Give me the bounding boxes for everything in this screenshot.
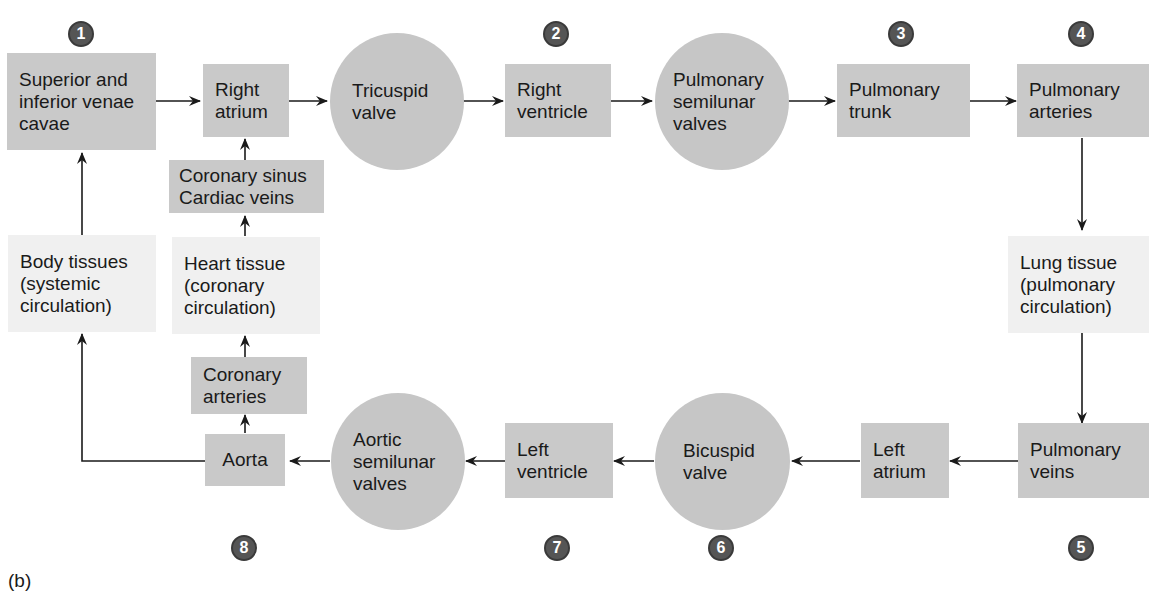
node-label: Pulmonary semilunar valves — [673, 69, 773, 135]
node-bicuspid-valve: Bicuspid valve — [655, 393, 790, 530]
node-label: Right atrium — [215, 79, 277, 123]
node-left-ventricle: Left ventricle — [505, 423, 613, 498]
figure-label: (b) — [8, 570, 31, 592]
node-lung-tissue: Lung tissue (pulmonary circulation) — [1008, 236, 1149, 333]
step-badge-2: 2 — [543, 21, 569, 47]
node-label: Right ventricle — [517, 79, 597, 123]
node-right-atrium: Right atrium — [203, 64, 289, 137]
node-label: Left ventricle — [517, 439, 597, 483]
node-label: Left atrium — [873, 439, 933, 483]
node-body-tissues: Body tissues (systemic circulation) — [8, 235, 156, 332]
node-label: Pulmonary arteries — [1029, 79, 1129, 123]
node-label: Lung tissue (pulmonary circulation) — [1020, 252, 1137, 318]
step-badge-3: 3 — [888, 21, 914, 47]
node-label: Pulmonary trunk — [849, 79, 949, 123]
node-tricuspid-valve: Tricuspid valve — [330, 33, 464, 170]
node-label: Body tissues (systemic circulation) — [20, 251, 140, 317]
node-label: Aorta — [222, 449, 267, 471]
node-label: Coronary sinus Cardiac veins — [179, 165, 314, 209]
step-badge-8: 8 — [231, 535, 257, 561]
node-pulmonary-arteries: Pulmonary arteries — [1017, 64, 1149, 137]
node-coronary-sinus: Coronary sinus Cardiac veins — [169, 160, 324, 213]
node-coronary-arteries: Coronary arteries — [191, 357, 307, 414]
node-label: Pulmonary veins — [1030, 439, 1130, 483]
step-badge-7: 7 — [544, 535, 570, 561]
node-label: Heart tissue (coronary circulation) — [184, 253, 304, 319]
node-pulmonary-trunk: Pulmonary trunk — [837, 64, 970, 137]
node-left-atrium: Left atrium — [861, 423, 949, 498]
node-aorta: Aorta — [205, 434, 285, 486]
node-label: Tricuspid valve — [352, 80, 442, 124]
node-aortic-semilunar-valves: Aortic semilunar valves — [331, 393, 465, 530]
node-venae-cavae: Superior and inferior venae cavae — [7, 53, 156, 150]
node-pulmonary-semilunar-valves: Pulmonary semilunar valves — [655, 33, 789, 170]
step-badge-5: 5 — [1068, 535, 1094, 561]
node-label: Bicuspid valve — [683, 440, 773, 484]
node-right-ventricle: Right ventricle — [505, 64, 611, 137]
step-badge-6: 6 — [708, 535, 734, 561]
node-heart-tissue: Heart tissue (coronary circulation) — [172, 237, 320, 334]
node-label: Aortic semilunar valves — [353, 429, 453, 495]
node-label: Superior and inferior venae cavae — [19, 69, 144, 135]
node-pulmonary-veins: Pulmonary veins — [1018, 423, 1149, 498]
step-badge-4: 4 — [1068, 21, 1094, 47]
step-badge-1: 1 — [68, 21, 94, 47]
node-label: Coronary arteries — [203, 364, 293, 408]
